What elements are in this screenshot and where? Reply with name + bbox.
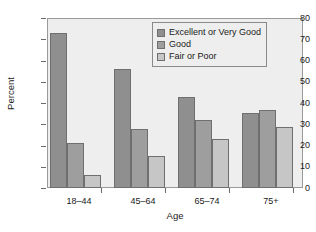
legend-swatch-icon <box>157 53 165 61</box>
x-axis-tick-mark <box>165 188 166 193</box>
x-axis-tick-mark <box>229 188 230 193</box>
x-axis-tick-label: 18–44 <box>49 196 109 206</box>
x-axis-tick-label: 65–74 <box>177 196 237 206</box>
y-axis-title: Percent <box>5 64 16 124</box>
y-axis-tick-mark <box>41 167 46 168</box>
bar <box>50 33 67 188</box>
bar <box>67 143 84 188</box>
x-axis-tick-label: 45–64 <box>113 196 173 206</box>
bar-chart: Percent 01020304050607080 18–4445–6465–7… <box>0 0 316 232</box>
y-axis-tick-mark <box>41 61 46 62</box>
bar <box>131 129 148 189</box>
bar <box>242 113 259 188</box>
bar <box>114 69 131 188</box>
x-axis-tick-mark <box>293 188 294 193</box>
bar <box>178 97 195 188</box>
y-axis-tick-mark <box>41 188 46 189</box>
x-axis-tick-label: 75+ <box>241 196 301 206</box>
legend-item: Excellent or Very Good <box>157 27 261 38</box>
y-axis-tick-mark <box>41 103 46 104</box>
x-axis-title: Age <box>47 210 303 221</box>
x-axis-tick-mark <box>101 188 102 193</box>
legend-item-label: Excellent or Very Good <box>169 28 261 37</box>
y-axis-tick-mark <box>41 124 46 125</box>
y-axis-tick-mark <box>41 18 46 19</box>
legend-item: Good <box>157 39 261 50</box>
bar <box>259 110 276 188</box>
y-axis-tick-mark <box>41 82 46 83</box>
bar <box>212 139 229 188</box>
y-axis-tick-mark <box>41 39 46 40</box>
legend-item: Fair or Poor <box>157 51 261 62</box>
y-axis: Percent <box>0 0 47 232</box>
legend-item-label: Good <box>169 40 191 49</box>
legend-swatch-icon <box>157 29 165 37</box>
legend-swatch-icon <box>157 41 165 49</box>
legend-item-label: Fair or Poor <box>169 52 217 61</box>
bar <box>84 175 101 188</box>
bar <box>195 120 212 188</box>
bar <box>276 127 293 188</box>
y-axis-tick-mark <box>41 146 46 147</box>
bar <box>148 156 165 188</box>
chart-legend: Excellent or Very Good Good Fair or Poor <box>152 22 267 67</box>
